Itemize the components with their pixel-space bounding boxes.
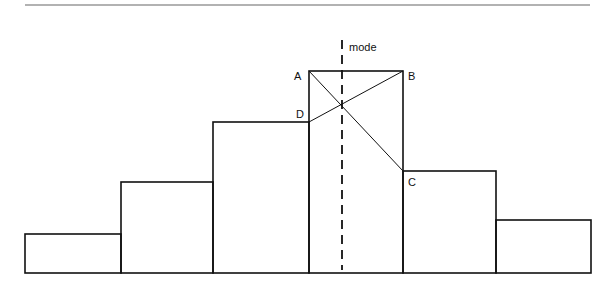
histogram-bars	[25, 71, 591, 273]
mode-label: mode	[349, 41, 377, 53]
histogram-mode-diagram: mode A B C D	[0, 0, 612, 288]
point-D-label: D	[296, 108, 304, 120]
bar-4-modal-class	[309, 71, 403, 273]
line-BD	[309, 71, 403, 122]
point-A-label: A	[294, 70, 302, 82]
bar-2	[121, 182, 213, 273]
line-AC	[309, 71, 403, 171]
bar-3	[213, 122, 309, 273]
bar-1	[25, 234, 121, 273]
point-C-label: C	[408, 176, 416, 188]
bar-5	[403, 171, 496, 273]
bar-6	[496, 220, 591, 273]
point-B-label: B	[408, 70, 415, 82]
